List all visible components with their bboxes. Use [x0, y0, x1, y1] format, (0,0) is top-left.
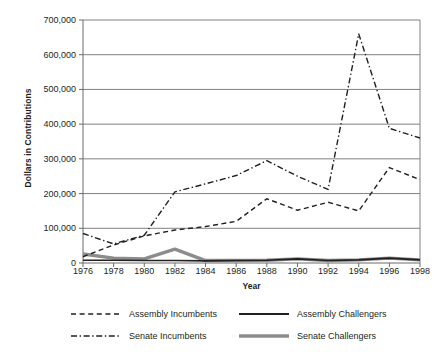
x-tick-label: 1980: [134, 266, 154, 276]
x-tick-label: 1982: [165, 266, 185, 276]
x-tick-label: 1988: [257, 266, 277, 276]
gridlines: [83, 20, 420, 228]
x-axis-title: Year: [83, 281, 420, 291]
legend-label: Senate Incumbents: [129, 331, 207, 341]
x-tick-label: 1976: [73, 266, 93, 276]
x-tick-label: 1996: [379, 266, 399, 276]
legend-label: Senate Challengers: [297, 331, 376, 341]
legend-item-senate-incumbents: Senate Incumbents: [70, 330, 238, 342]
axis-ticks: [79, 20, 420, 267]
x-tick-label: 1986: [226, 266, 246, 276]
x-tick-label: 1998: [410, 266, 430, 276]
line-chart: Dollars in Contributions 700,000 600,000…: [0, 0, 448, 352]
chart-legend: Assembly Incumbents Assembly Challengers…: [70, 303, 430, 347]
x-tick-label: 1994: [349, 266, 369, 276]
x-tick-label: 1984: [196, 266, 216, 276]
series-line-assembly-incumbents: [83, 168, 420, 257]
legend-item-assembly-challengers: Assembly Challengers: [238, 308, 430, 320]
x-tick-label: 1978: [104, 266, 124, 276]
series-line-senate-incumbents: [83, 34, 420, 244]
legend-label: Assembly Incumbents: [129, 309, 217, 319]
solid-thin-line-swatch: [238, 308, 290, 320]
x-tick-label: 1990: [287, 266, 307, 276]
solid-thick-gray-line-swatch: [238, 330, 290, 342]
data-series-group: [83, 34, 420, 261]
plot-area: [0, 0, 448, 300]
x-tick-label: 1992: [318, 266, 338, 276]
dashed-line-swatch: [70, 308, 122, 320]
legend-item-senate-challengers: Senate Challengers: [238, 330, 430, 342]
legend-label: Assembly Challengers: [297, 309, 387, 319]
dash-dot-line-swatch: [70, 330, 122, 342]
legend-item-assembly-incumbents: Assembly Incumbents: [70, 308, 238, 320]
